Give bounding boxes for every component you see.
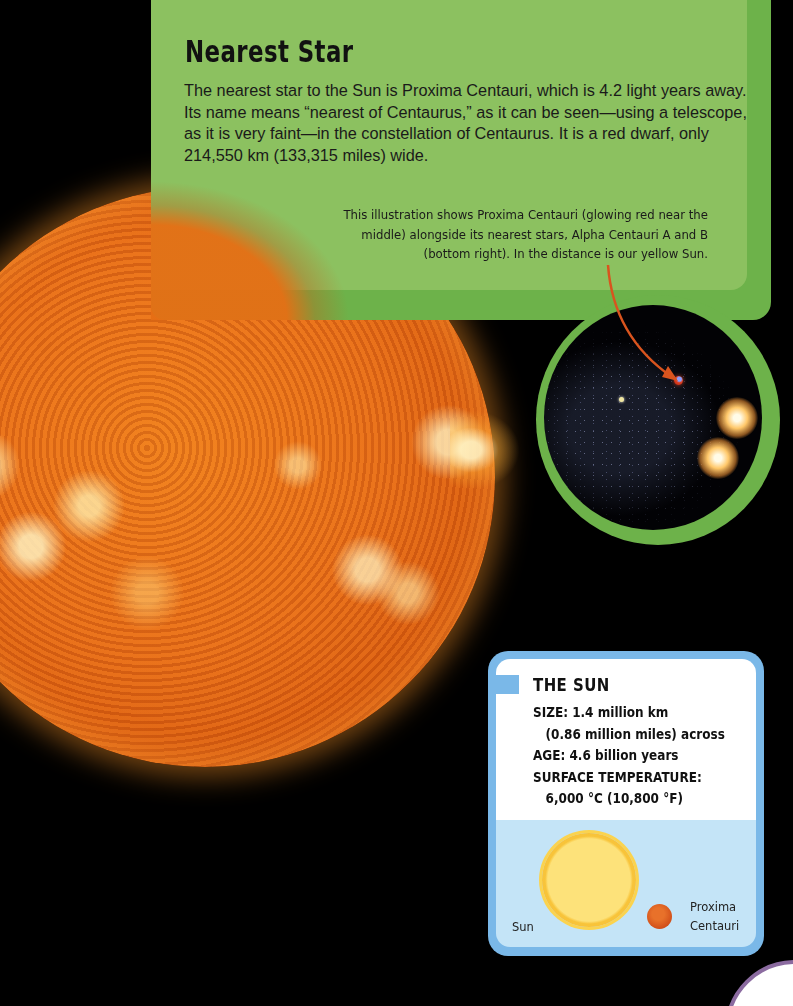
fact-card-title: THE SUN xyxy=(533,675,610,695)
sun-label: Sun xyxy=(512,919,534,934)
sun-size-icon xyxy=(542,833,636,927)
page-number-badge xyxy=(725,960,793,1006)
alpha-centauri-b xyxy=(697,437,739,479)
intro-paragraph: The nearest star to the Sun is Proxima C… xyxy=(184,80,764,166)
illustration-caption: This illustration shows Proxima Centauri… xyxy=(329,205,708,264)
proxima-label-line1: Proxima xyxy=(690,897,739,916)
distant-sun-dot xyxy=(619,397,624,402)
page-title: Nearest Star xyxy=(185,33,353,69)
fact-size: SIZE: 1.4 million km xyxy=(533,702,736,724)
fact-age: AGE: 4.6 billion years xyxy=(533,745,736,767)
pointer-arrow-icon xyxy=(590,265,700,385)
proxima-label-line2: Centauri xyxy=(690,916,739,935)
proxima-size-icon xyxy=(647,904,672,929)
fact-size-miles: (0.86 million miles) across xyxy=(533,724,736,746)
proxima-label: Proxima Centauri xyxy=(690,897,739,935)
alpha-centauri-a xyxy=(716,397,758,439)
fact-list: SIZE: 1.4 million km (0.86 million miles… xyxy=(533,702,758,810)
fact-card-tab xyxy=(496,675,519,694)
fact-temperature-label: SURFACE TEMPERATURE: xyxy=(533,767,736,789)
solar-flare xyxy=(450,410,520,490)
fact-temperature-value: 6,000 °C (10,800 °F) xyxy=(533,788,736,810)
